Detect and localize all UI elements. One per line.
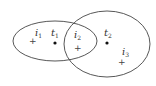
label-i2: i2 (74, 29, 81, 41)
venn-diagram: + i1 t1 i2 + t2 i3 + (0, 0, 156, 86)
plus-marker-i3: + (118, 57, 126, 67)
label-i1: i1 (35, 27, 42, 39)
dot-t1 (53, 41, 56, 44)
plus-marker-i2: + (74, 43, 82, 53)
label-t1: t1 (51, 27, 59, 39)
dot-t2 (105, 41, 108, 44)
label-t2: t2 (104, 27, 112, 39)
